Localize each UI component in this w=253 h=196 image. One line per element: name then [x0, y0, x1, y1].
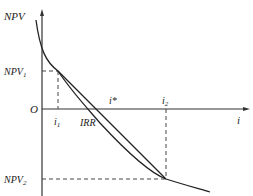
interpolation-line: [58, 71, 166, 179]
x-axis-label: i: [237, 114, 240, 126]
npv1-label: NPV1: [3, 66, 26, 79]
x-axis-arrow-icon: [243, 107, 250, 111]
y-axis-arrow-icon: [40, 9, 44, 16]
i1-label: i1: [54, 116, 60, 129]
npv2-label: NPV2: [3, 174, 27, 187]
istar-label: i*: [109, 95, 117, 106]
npv-curve: [36, 20, 210, 192]
irr-label: IRR: [79, 117, 96, 128]
i2-label: i2: [162, 95, 169, 108]
origin-label: O: [30, 103, 38, 115]
irr-diagram: NPV NPV1 O i1 IRR i* i2 i NPV2: [0, 0, 253, 196]
y-axis-label: NPV: [3, 10, 26, 22]
